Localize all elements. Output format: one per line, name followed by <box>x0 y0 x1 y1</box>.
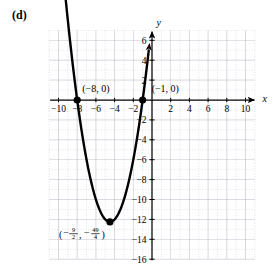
data-point-vertex <box>106 218 113 225</box>
y-tick-label: −6 <box>136 155 146 165</box>
point-label-vertex: (−92,−494) <box>59 226 105 241</box>
point-label-x-intercept-left: (−8, 0) <box>82 83 109 95</box>
x-tick-label: 8 <box>224 104 229 114</box>
svg-text:−: − <box>84 227 90 238</box>
svg-text:,: , <box>79 229 82 240</box>
y-axis-label: y <box>156 17 162 28</box>
svg-text:4: 4 <box>94 233 97 240</box>
svg-text:): ) <box>101 229 104 241</box>
svg-text:−: − <box>63 227 69 238</box>
x-tick-label: −10 <box>51 104 66 114</box>
coordinate-plot: −10−8−6−4−2246810642−2−4−6−8−10−12−14−16… <box>0 0 280 271</box>
svg-text:2: 2 <box>72 233 75 240</box>
y-tick-label: −12 <box>132 215 147 225</box>
x-tick-label: −6 <box>91 104 101 114</box>
x-tick-label: 4 <box>187 104 192 114</box>
svg-text:49: 49 <box>92 226 98 233</box>
y-tick-label: −14 <box>132 235 147 245</box>
data-point-x-intercept-right <box>139 96 146 103</box>
x-tick-label: 2 <box>168 104 173 114</box>
figure-panel: (d) −10−8−6−4−2246810642−2−4−6−8−10−12−1… <box>0 0 280 271</box>
y-tick-label: −8 <box>136 175 146 185</box>
axes <box>50 32 254 260</box>
x-tick-label: 10 <box>241 104 251 114</box>
x-tick-label: −4 <box>110 104 120 114</box>
y-tick-label: 6 <box>142 36 147 46</box>
x-axis-label: x <box>261 93 267 104</box>
x-tick-label: 6 <box>206 104 211 114</box>
plotted-points <box>74 96 147 225</box>
data-point-x-intercept-left <box>74 96 81 103</box>
y-tick-label: −16 <box>132 255 147 265</box>
point-label-x-intercept-right: (−1, 0) <box>152 83 179 95</box>
svg-text:9: 9 <box>72 226 75 233</box>
y-tick-label: −10 <box>132 195 147 205</box>
x-tick-label: −2 <box>128 104 138 114</box>
y-tick-label: −2 <box>136 115 146 125</box>
